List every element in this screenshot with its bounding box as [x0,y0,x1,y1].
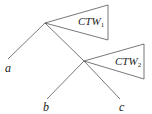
leaf-label-c: c [119,101,124,113]
subtree-label-2: CTW2 [115,55,141,71]
subtree-label-1: CTW1 [78,15,104,31]
leaf-label-b: b [43,101,49,113]
tree-diagram: CTW1 CTW2 a b c [0,0,152,114]
leaf-label-a: a [5,62,11,74]
edge-root-a [8,23,45,59]
edge-inner-b [47,61,84,99]
